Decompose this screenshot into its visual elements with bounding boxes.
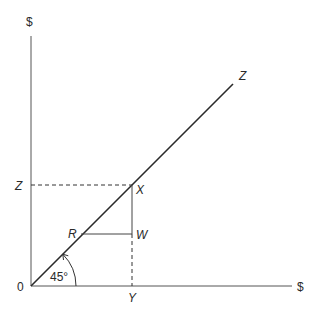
- diagram-canvas: $ $ 0 Z Z X R W Y 45°: [0, 0, 317, 315]
- point-r-label: R: [68, 227, 77, 241]
- origin-label: 0: [17, 280, 24, 294]
- x-axis-label: $: [297, 280, 304, 294]
- point-w-label: W: [136, 228, 149, 242]
- angle-label: 45°: [50, 270, 68, 284]
- y-value-label: Y: [128, 291, 137, 305]
- z-level-label: Z: [14, 179, 23, 193]
- y-axis-label: $: [26, 15, 33, 29]
- point-x-label: X: [135, 183, 145, 197]
- line-label-z: Z: [238, 69, 247, 83]
